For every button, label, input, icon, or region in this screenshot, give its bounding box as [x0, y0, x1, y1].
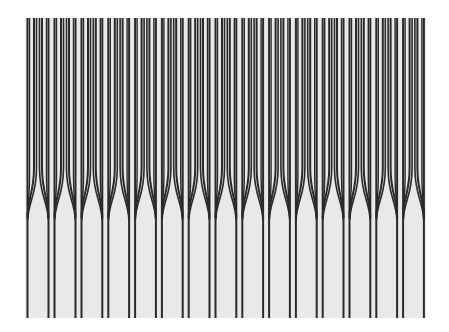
fork-array-figure — [0, 0, 449, 332]
fork-line — [15, 18, 22, 218]
figure-panel — [25, 18, 426, 318]
fork-line — [430, 18, 437, 218]
fork-line — [430, 18, 439, 220]
fork-line — [20, 18, 22, 218]
fork-line — [430, 18, 432, 218]
fork-line — [13, 18, 22, 220]
